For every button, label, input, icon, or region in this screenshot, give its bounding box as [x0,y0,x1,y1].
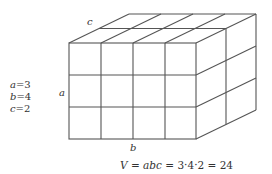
front-face [69,43,196,139]
volume-formula: V = abc = 3·4·2 = 24 [120,160,233,171]
value-a: a=3 [10,79,31,91]
edge-label-a: a [59,88,65,98]
right-face [196,14,256,139]
top-face [69,14,256,43]
dimension-values: a=3 b=4 c=2 [10,79,31,115]
edge-label-c: c [87,17,93,27]
value-c: c=2 [10,103,31,115]
edge-label-b: b [130,143,136,153]
value-b: b=4 [10,91,31,103]
